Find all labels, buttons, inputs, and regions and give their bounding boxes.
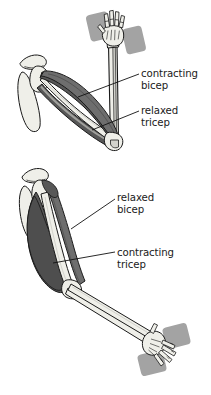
label-line-2: tricep <box>117 259 146 270</box>
label-contracting-tricep: contractingtricep <box>117 247 174 270</box>
label-relaxed-bicep: relaxedbicep <box>117 192 154 215</box>
label-line-2: tricep <box>141 117 170 128</box>
label-contracting-bicep: contractingbicep <box>141 68 198 91</box>
label-line-1: relaxed <box>117 192 154 203</box>
label-line-1: contracting <box>117 247 174 258</box>
elbow-flexed <box>104 132 123 150</box>
label-line-1: contracting <box>141 68 198 79</box>
label-line-1: relaxed <box>141 105 178 116</box>
label-line-2: bicep <box>141 80 168 91</box>
anatomy-diagram <box>0 0 211 395</box>
label-relaxed-tricep: relaxedtricep <box>141 105 178 128</box>
label-line-2: bicep <box>117 204 144 215</box>
